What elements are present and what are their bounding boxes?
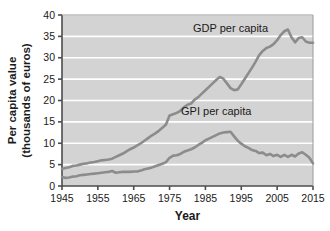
y-tick-label-5: 5 bbox=[49, 158, 55, 170]
x-tick-label-2015: 2015 bbox=[301, 192, 325, 204]
y-tick-label-25: 25 bbox=[43, 73, 55, 85]
y-tick-label-35: 35 bbox=[43, 30, 55, 42]
x-tick-label-1945: 1945 bbox=[50, 192, 74, 204]
x-tick-label-1995: 1995 bbox=[230, 192, 254, 204]
y-axis-title-line2: (thousands of euros) bbox=[20, 43, 32, 158]
x-tick-label-2005: 2005 bbox=[265, 192, 289, 204]
y-axis-title-line1: Per capita value bbox=[6, 57, 18, 145]
x-tick-label-1985: 1985 bbox=[194, 192, 218, 204]
y-tick-label-10: 10 bbox=[43, 137, 55, 149]
y-tick-label-20: 20 bbox=[43, 94, 55, 106]
x-axis-title: Year bbox=[175, 209, 201, 223]
x-tick-label-1975: 1975 bbox=[158, 192, 182, 204]
y-tick-label-40: 40 bbox=[43, 9, 55, 21]
chart-figure: 0510152025303540194519551965197519851995… bbox=[0, 0, 330, 231]
y-tick-label-15: 15 bbox=[43, 115, 55, 127]
gdp-vs-gpi-line-chart: 0510152025303540194519551965197519851995… bbox=[0, 0, 330, 231]
x-tick-label-1965: 1965 bbox=[122, 192, 146, 204]
series-label-gdp: GDP per capita bbox=[193, 22, 269, 34]
y-tick-label-0: 0 bbox=[49, 180, 55, 192]
x-tick-label-1955: 1955 bbox=[86, 192, 110, 204]
y-tick-label-30: 30 bbox=[43, 51, 55, 63]
series-label-gpi: GPI per capita bbox=[181, 105, 252, 117]
